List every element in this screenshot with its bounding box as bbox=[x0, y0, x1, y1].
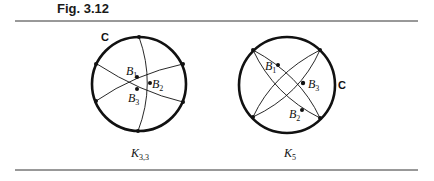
k33-diagram: B1 B2 B3 C K3,3 bbox=[92, 31, 186, 162]
caption-k33: K3,3 bbox=[130, 146, 149, 162]
edge-arc bbox=[96, 64, 183, 101]
vertex-dot bbox=[251, 115, 255, 119]
curve-label-c-left: C bbox=[101, 31, 109, 43]
k5-diagram: B1 B3 B2 C K5 bbox=[239, 37, 346, 162]
label-b1: B1 bbox=[265, 59, 276, 75]
label-b1: B1 bbox=[126, 64, 137, 80]
point-b1 bbox=[276, 63, 280, 67]
vertex-dot bbox=[94, 99, 98, 103]
vertex-dot bbox=[137, 35, 141, 39]
vertex-dot bbox=[94, 62, 98, 66]
edge-arc bbox=[97, 64, 183, 102]
vertex-dot bbox=[251, 48, 255, 52]
point-b2 bbox=[300, 108, 304, 112]
curve-c-left bbox=[92, 37, 186, 131]
vertex-dot bbox=[318, 48, 322, 52]
edge-arc bbox=[138, 37, 147, 131]
label-b2: B2 bbox=[289, 107, 300, 123]
label-b3: B3 bbox=[128, 91, 139, 107]
label-b3: B3 bbox=[308, 77, 319, 93]
label-b2: B2 bbox=[152, 77, 163, 93]
vertex-dot bbox=[318, 116, 322, 120]
point-b3 bbox=[135, 87, 139, 91]
vertex-dot bbox=[181, 100, 185, 104]
vertex-dot bbox=[181, 62, 185, 66]
figure-canvas: B1 B2 B3 C K3,3 B1 B3 B2 C K5 bbox=[0, 0, 434, 181]
caption-k5: K5 bbox=[283, 146, 296, 162]
curve-label-c-right: C bbox=[338, 79, 346, 91]
point-b3 bbox=[301, 81, 305, 85]
vertex-dot bbox=[136, 129, 140, 133]
